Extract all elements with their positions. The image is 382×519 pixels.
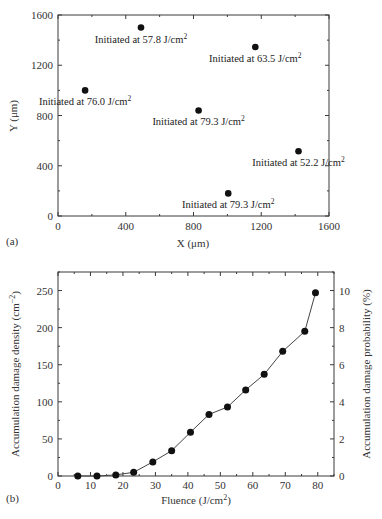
x-tick-label: 0 <box>55 220 61 232</box>
x-tick-label: 20 <box>117 479 129 491</box>
x-tick-label: 50 <box>215 479 227 491</box>
point-annotation: Initiated at 52.2 J/cm2 <box>252 155 345 168</box>
panel-label-a: (a) <box>6 235 19 248</box>
data-point <box>112 471 119 478</box>
data-point <box>82 87 89 94</box>
series-line <box>78 293 316 476</box>
x-tick-label: 1600 <box>318 220 341 232</box>
y-axis-label-b: Accumulation damage density (cm−2) <box>8 291 22 457</box>
point-annotation: Initiated at 63.5 J/cm2 <box>209 51 302 64</box>
y-tick-label: 0 <box>48 210 54 222</box>
data-point <box>225 190 232 197</box>
x-tick-label: 1200 <box>250 220 273 232</box>
data-point <box>138 24 145 31</box>
data-point <box>252 44 259 51</box>
data-point <box>130 469 137 476</box>
x-axis-label-b: Fluence (J/cm2) <box>161 493 231 507</box>
y2-tick-label: 4 <box>339 396 345 408</box>
x-tick-label: 400 <box>118 220 135 232</box>
y-tick-label: 50 <box>42 433 54 445</box>
data-point <box>279 348 286 355</box>
y-tick-label: 400 <box>37 160 54 172</box>
point-annotation: Initiated at 79.3 J/cm2 <box>182 197 275 210</box>
data-point <box>187 429 194 436</box>
data-point <box>149 458 156 465</box>
line-chart-b: 01020304050607080 050100150200250 024681… <box>6 272 373 507</box>
plot-frame-b <box>58 272 334 476</box>
y-tick-label: 1600 <box>31 9 54 21</box>
x-tick-label: 800 <box>185 220 202 232</box>
data-point <box>168 447 175 454</box>
y2-axis-label-b: Accumulation damage probability (%) <box>360 289 373 459</box>
x-tick-label: 40 <box>182 479 194 491</box>
data-point <box>312 289 319 296</box>
data-point <box>261 371 268 378</box>
x-tick-label: 10 <box>85 479 97 491</box>
x-tick-label: 30 <box>150 479 162 491</box>
data-points-b <box>74 289 319 479</box>
y-tick-label: 100 <box>37 396 54 408</box>
y2-tick-label: 2 <box>339 433 345 445</box>
x-tick-label: 0 <box>55 479 61 491</box>
y2-tick-label: 8 <box>339 322 345 334</box>
y-tick-label: 1200 <box>31 59 54 71</box>
point-annotation: Initiated at 79.3 J/cm2 <box>152 114 245 127</box>
y-tick-label: 200 <box>37 322 54 334</box>
data-points-a: Initiated at 57.8 J/cm2Initiated at 63.5… <box>39 24 345 210</box>
point-annotation: Initiated at 57.8 J/cm2 <box>95 32 188 45</box>
data-point <box>242 386 249 393</box>
x-tick-label: 60 <box>247 479 259 491</box>
x-axis-label-a: X (μm) <box>177 237 210 250</box>
data-point <box>295 148 302 155</box>
point-annotation: Initiated at 76.0 J/cm2 <box>39 94 132 107</box>
data-point <box>205 411 212 418</box>
data-point <box>74 473 81 480</box>
data-point <box>195 107 202 114</box>
y2-tick-label: 10 <box>339 285 351 297</box>
y-tick-label: 800 <box>37 110 54 122</box>
data-point <box>224 404 231 411</box>
data-point <box>301 328 308 335</box>
scatter-chart-a: 040080012001600 040080012001600 X (μm) Y… <box>6 9 345 250</box>
panel-label-b: (b) <box>6 492 19 505</box>
y-tick-label: 0 <box>48 470 54 482</box>
y2-axis-b: 0246810 <box>330 272 351 482</box>
data-point <box>93 473 100 480</box>
figure: 040080012001600 040080012001600 X (μm) Y… <box>0 0 382 519</box>
y-tick-label: 150 <box>37 359 54 371</box>
y-tick-label: 250 <box>37 285 54 297</box>
y2-tick-label: 0 <box>339 470 345 482</box>
y-axis-label-a: Y (μm) <box>7 100 20 132</box>
x-axis-b: 01020304050607080 <box>55 272 334 491</box>
y2-tick-label: 6 <box>339 359 345 371</box>
x-tick-label: 80 <box>312 479 324 491</box>
x-tick-label: 70 <box>280 479 292 491</box>
